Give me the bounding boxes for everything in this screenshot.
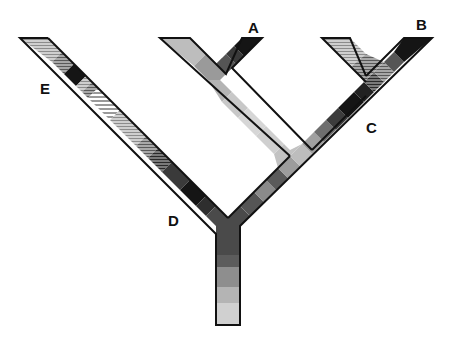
label-e: E [40, 81, 50, 96]
label-b: B [416, 17, 427, 32]
branch-e [20, 38, 216, 216]
label-d: D [168, 213, 179, 228]
label-a: A [248, 20, 259, 35]
tree-diagram [0, 0, 454, 338]
label-c: C [366, 120, 377, 135]
